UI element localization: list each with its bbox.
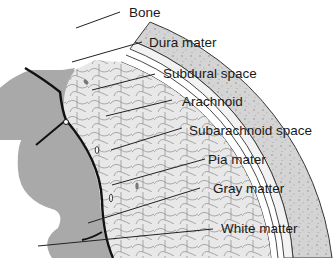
label-gray-matter: Gray matter [213,182,284,196]
label-pia-mater: Pia mater [208,153,266,167]
label-dura-mater: Dura mater [149,36,217,50]
label-bone: Bone [129,6,161,20]
label-subarachnoid-space: Subarachnoid space [189,124,312,138]
label-white-matter: White matter [221,222,298,236]
label-arachnoid: Arachnoid [182,95,243,109]
meninges-diagram: Bone Dura mater Subdural space Arachnoid… [0,0,333,268]
label-subdural-space: Subdural space [163,67,257,81]
